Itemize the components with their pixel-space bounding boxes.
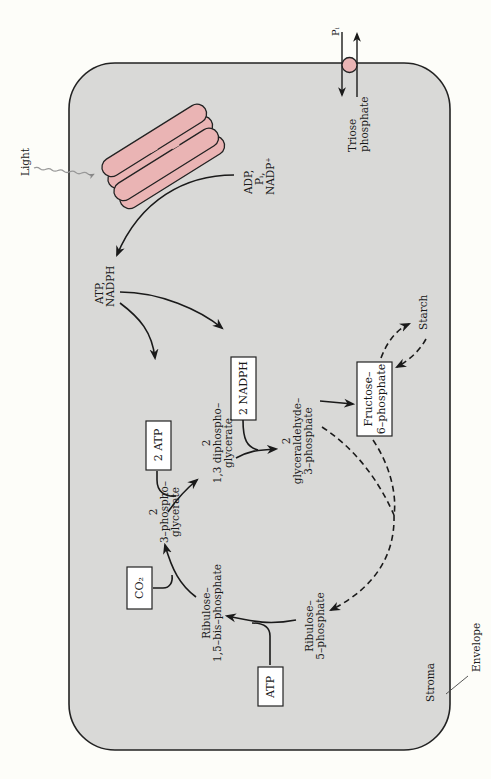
f6p-box-label-2: 6–phosphate xyxy=(375,364,388,435)
atp2-box-label: 2 ATP xyxy=(152,428,165,461)
triose-phosphate-label-1: Triose xyxy=(346,119,358,152)
ru5p-label-2: 5–phosphate xyxy=(314,592,326,659)
stroma-label: Stroma xyxy=(424,663,436,702)
atp-nadph-label-2: NADPH xyxy=(104,266,116,307)
light-label: Light xyxy=(19,147,31,176)
pi-out-label: Pᵢ xyxy=(330,27,341,36)
adp-label-3: NADP⁺ xyxy=(264,157,276,195)
transporter-icon xyxy=(342,58,357,73)
co2-box-label: CO₂ xyxy=(133,577,146,599)
calvin-cycle-diagram: Pᵢ Triose phosphate Light ADP, Pᵢ, NADP⁺… xyxy=(0,0,491,779)
nadph-box-label: 2 NADPH xyxy=(237,361,250,415)
atp-box-label: ATP xyxy=(264,675,277,699)
envelope-label: Envelope xyxy=(470,623,482,672)
dpg-label-3: glycerate xyxy=(222,418,234,468)
pga-label-3: glycerate xyxy=(169,487,181,537)
triose-phosphate-label-2: phosphate xyxy=(358,97,370,152)
rubp-label-2: 1,5–bis–phosphate xyxy=(211,564,223,662)
gap-label-3: 3–phosphate xyxy=(302,407,314,474)
starch-label: Starch xyxy=(417,294,429,330)
f6p-box-label-1: Fructose– xyxy=(362,371,375,426)
